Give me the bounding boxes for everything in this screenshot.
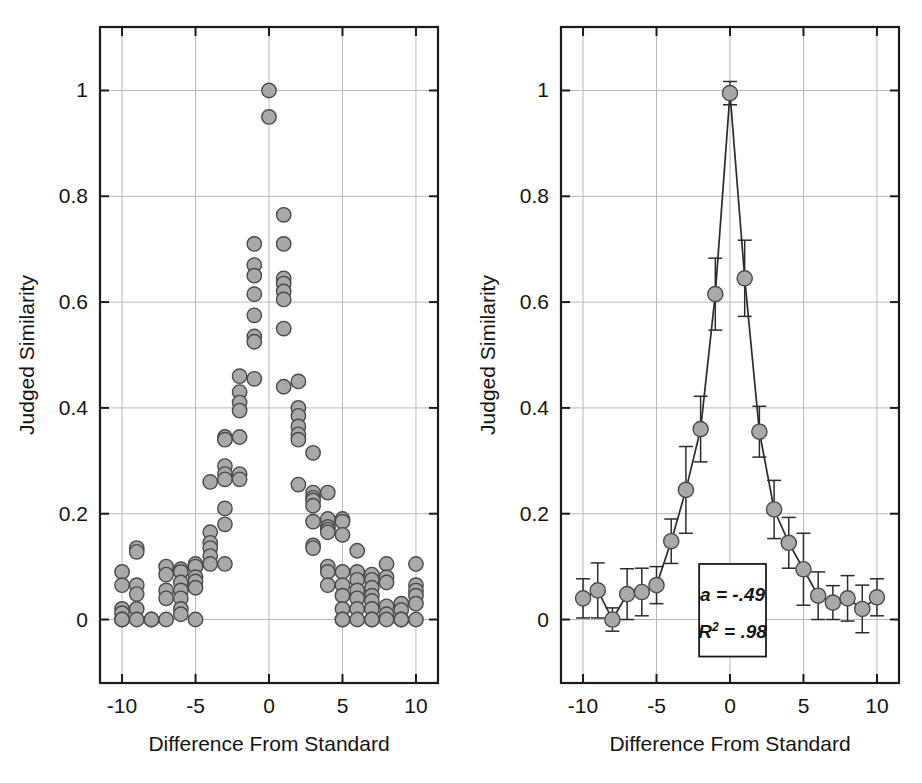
data-point-marker — [335, 589, 349, 603]
data-point-marker — [321, 525, 335, 539]
data-point-marker — [291, 477, 305, 491]
data-point-marker — [247, 237, 261, 251]
annotation-rsquared-text: R2 = .98 — [698, 620, 767, 642]
data-point-marker — [232, 369, 246, 383]
data-point-marker — [306, 514, 320, 528]
data-point-marker — [590, 583, 605, 598]
data-point-marker — [321, 565, 335, 579]
annotation-slope-text: a = -.49 — [700, 584, 765, 605]
y-tick-label: 0.8 — [59, 184, 88, 207]
data-point-marker — [159, 591, 173, 605]
data-point-marker — [247, 268, 261, 282]
data-point-marker — [350, 544, 364, 558]
data-point-marker — [409, 557, 423, 571]
data-point-marker — [321, 485, 335, 499]
y-tick-label: 0.6 — [520, 290, 549, 313]
y-tick-label: 1 — [76, 78, 88, 101]
data-point-marker — [115, 578, 129, 592]
y-tick-label: 0.6 — [59, 290, 88, 313]
y-tick-label: 0.2 — [520, 502, 549, 525]
data-point-marker — [575, 591, 590, 606]
data-point-marker — [620, 587, 635, 602]
y-axis-title: Judged Similarity — [15, 275, 38, 435]
data-point-marker — [262, 83, 276, 97]
x-tick-label: 0 — [263, 694, 275, 717]
data-point-marker — [276, 237, 290, 251]
x-tick-label: 5 — [798, 694, 810, 717]
data-point-marker — [306, 541, 320, 555]
data-point-marker — [766, 502, 781, 517]
data-point-marker — [678, 482, 693, 497]
data-point-marker — [218, 517, 232, 531]
data-point-marker — [335, 565, 349, 579]
y-tick-label: 0.4 — [59, 396, 89, 419]
data-point-marker — [752, 424, 767, 439]
data-point-marker — [855, 601, 870, 616]
data-point-marker — [203, 557, 217, 571]
data-point-marker — [796, 562, 811, 577]
figure-container: 00.20.40.60.81-10-50510Difference From S… — [0, 0, 922, 783]
data-point-marker — [350, 612, 364, 626]
data-point-marker — [840, 591, 855, 606]
data-point-marker — [321, 578, 335, 592]
data-point-marker — [649, 578, 664, 593]
data-point-marker — [218, 501, 232, 515]
data-point-marker — [811, 588, 826, 603]
y-tick-label: 0.2 — [59, 502, 88, 525]
fit-annotation-box: a = -.49R2 = .98 — [698, 564, 767, 657]
data-point-marker — [188, 612, 202, 626]
data-point-marker — [693, 421, 708, 436]
y-tick-label: 0.4 — [520, 396, 550, 419]
y-tick-label: 0.8 — [520, 184, 549, 207]
x-tick-label: 0 — [724, 694, 736, 717]
x-axis-title: Difference From Standard — [609, 732, 850, 755]
data-point-marker — [722, 86, 737, 101]
data-point-marker — [247, 287, 261, 301]
data-point-marker — [130, 587, 144, 601]
data-point-marker — [232, 472, 246, 486]
data-point-marker — [379, 612, 393, 626]
data-point-marker — [276, 208, 290, 222]
data-point-marker — [203, 475, 217, 489]
data-point-marker — [335, 612, 349, 626]
annotation-box-border — [699, 564, 766, 657]
data-point-marker — [130, 545, 144, 559]
data-point-marker — [306, 446, 320, 460]
data-point-marker — [247, 308, 261, 322]
data-point-marker — [130, 612, 144, 626]
data-point-marker — [276, 321, 290, 335]
y-tick-label: 0 — [76, 608, 88, 631]
data-point-marker — [409, 612, 423, 626]
data-point-marker — [144, 612, 158, 626]
data-point-marker — [379, 557, 393, 571]
data-point-marker — [276, 380, 290, 394]
data-point-marker — [218, 472, 232, 486]
y-tick-label: 1 — [537, 78, 549, 101]
x-tick-label: -10 — [568, 694, 598, 717]
y-axis-title: Judged Similarity — [476, 275, 499, 435]
data-point-marker — [634, 584, 649, 599]
data-point-marker — [262, 110, 276, 124]
x-tick-label: 10 — [404, 694, 427, 717]
panel-left-scatter: 00.20.40.60.81-10-50510Difference From S… — [0, 0, 461, 783]
data-point-marker — [218, 432, 232, 446]
data-point-marker — [115, 565, 129, 579]
data-point-marker — [232, 430, 246, 444]
data-point-marker — [291, 374, 305, 388]
x-tick-label: -10 — [107, 694, 137, 717]
data-point-marker — [365, 612, 379, 626]
data-point-marker — [247, 335, 261, 349]
data-point-marker — [306, 499, 320, 513]
data-point-marker — [869, 590, 884, 605]
y-tick-label: 0 — [537, 608, 549, 631]
x-tick-label: 10 — [865, 694, 888, 717]
data-point-marker — [708, 287, 723, 302]
data-point-marker — [159, 567, 173, 581]
data-point-marker — [232, 403, 246, 417]
left-plot-svg: 00.20.40.60.81-10-50510Difference From S… — [0, 0, 461, 783]
data-point-marker — [335, 514, 349, 528]
data-point-marker — [174, 607, 188, 621]
data-point-marker — [737, 271, 752, 286]
x-axis-title: Difference From Standard — [148, 732, 389, 755]
data-point-marker — [115, 612, 129, 626]
